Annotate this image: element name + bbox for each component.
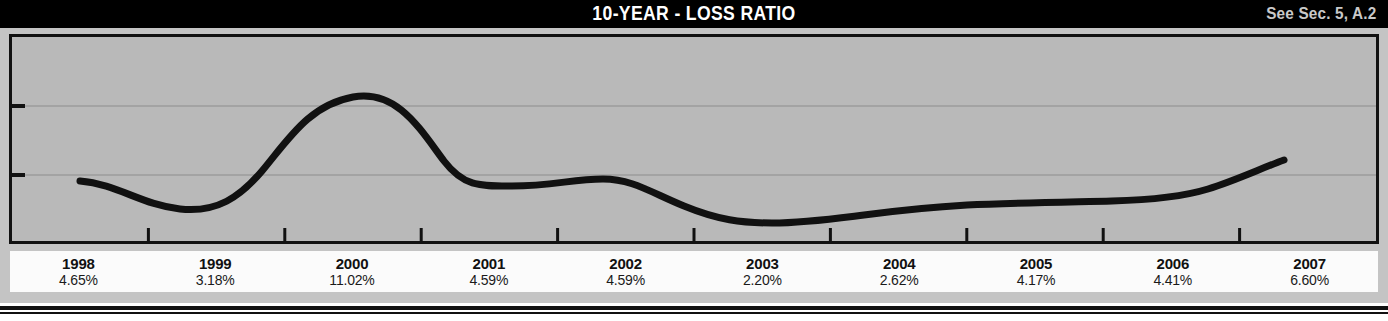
value-label: 2.20% <box>743 273 782 288</box>
year-label: 2000 <box>336 256 369 272</box>
label-cell-2000: 2000 11.02% <box>284 251 421 292</box>
footer-rule-thick <box>0 306 1388 310</box>
value-label: 6.60% <box>1290 273 1329 288</box>
label-cell-2006: 2006 4.41% <box>1104 251 1241 292</box>
footer-rule-thin <box>0 312 1388 314</box>
year-label: 1998 <box>62 256 95 272</box>
year-label-strip: 1998 4.65% 1999 3.18% 2000 11.02% 2001 4… <box>10 251 1378 292</box>
label-cell-1999: 1999 3.18% <box>147 251 284 292</box>
value-label: 4.65% <box>59 273 98 288</box>
value-label: 3.18% <box>196 273 235 288</box>
header-band: 10-YEAR - LOSS RATIO See Sec. 5, A.2 <box>0 0 1388 28</box>
label-cell-2005: 2005 4.17% <box>968 251 1105 292</box>
value-label: 4.41% <box>1153 273 1192 288</box>
loss-ratio-line-svg <box>12 37 1376 241</box>
year-label: 2007 <box>1293 256 1326 272</box>
label-cell-1998: 1998 4.65% <box>10 251 147 292</box>
label-cell-2007: 2007 6.60% <box>1241 251 1378 292</box>
year-label: 2002 <box>609 256 642 272</box>
value-label: 4.17% <box>1017 273 1056 288</box>
value-label: 2.62% <box>880 273 919 288</box>
loss-ratio-line <box>80 96 1284 223</box>
page-title: 10-YEAR - LOSS RATIO <box>83 0 1304 28</box>
label-cell-2002: 2002 4.59% <box>557 251 694 292</box>
y-axis-ticks <box>12 106 25 175</box>
year-label: 2001 <box>473 256 506 272</box>
year-label: 2004 <box>883 256 916 272</box>
year-label: 2003 <box>746 256 779 272</box>
value-label: 4.59% <box>606 273 645 288</box>
year-label: 2006 <box>1156 256 1189 272</box>
plot-area <box>9 34 1379 244</box>
loss-ratio-chart-page: 10-YEAR - LOSS RATIO See Sec. 5, A.2 <box>0 0 1388 321</box>
value-label: 4.59% <box>469 273 508 288</box>
label-cell-2003: 2003 2.20% <box>694 251 831 292</box>
value-label: 11.02% <box>329 273 374 288</box>
label-cell-2004: 2004 2.62% <box>831 251 968 292</box>
year-label: 2005 <box>1020 256 1053 272</box>
section-reference: See Sec. 5, A.2 <box>1266 0 1376 28</box>
year-label: 1999 <box>199 256 232 272</box>
label-cell-2001: 2001 4.59% <box>420 251 557 292</box>
gridlines <box>12 106 1376 175</box>
x-axis-ticks <box>148 228 1239 241</box>
